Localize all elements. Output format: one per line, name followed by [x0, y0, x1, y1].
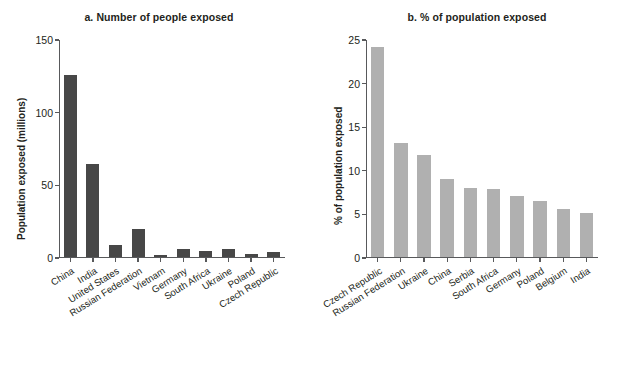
- bar: [109, 245, 122, 257]
- panel-b-y-tick: [362, 127, 366, 128]
- bar: [394, 143, 407, 256]
- bar-slot: [575, 39, 598, 257]
- x-tick-mark: [183, 258, 184, 262]
- bar: [557, 209, 570, 257]
- bar-slot: [217, 39, 240, 257]
- x-tick-slot: [436, 258, 459, 262]
- bar-slot: [149, 39, 172, 257]
- bar: [222, 249, 235, 256]
- bar-slot: [240, 39, 263, 257]
- panel-b-y-tick: [362, 170, 366, 171]
- panel-a-plot-area: ChinaIndiaUnited StatesRussian Federatio…: [59, 40, 285, 258]
- bar: [580, 213, 593, 257]
- x-tick-slot: [104, 258, 127, 262]
- panel-a-y-tick: [55, 112, 59, 113]
- figure: a. Number of people exposed Population e…: [0, 0, 636, 366]
- panel-a-y-axis-label: Population exposed (millions): [16, 98, 27, 240]
- x-tick-slot: [217, 258, 240, 262]
- x-tick-mark: [447, 258, 448, 262]
- panel-b-y-tick-label: 0: [354, 252, 360, 264]
- panel-a-title: a. Number of people exposed: [0, 11, 318, 23]
- panel-a-y-tick-label: 0: [47, 252, 53, 264]
- panel-b-y-tick: [362, 83, 366, 84]
- x-tick-label: India: [569, 265, 592, 285]
- x-tick-slot: [262, 258, 285, 262]
- bar: [64, 75, 77, 257]
- x-tick-mark: [377, 258, 378, 262]
- x-tick-slot: [82, 258, 105, 262]
- x-tick-slot: [195, 258, 218, 262]
- panel-b-y-tick: [362, 257, 366, 258]
- panel-a-y-tick-label: 50: [41, 179, 53, 191]
- panel-a-y-tick: [55, 185, 59, 186]
- x-tick-slot: [240, 258, 263, 262]
- x-tick-mark: [205, 258, 206, 262]
- x-tick-slot: [552, 258, 575, 262]
- bar: [177, 249, 190, 257]
- panel-b: b. % of population exposed % of populati…: [318, 0, 636, 366]
- x-tick-slot: [172, 258, 195, 262]
- panel-a: a. Number of people exposed Population e…: [0, 0, 318, 366]
- x-tick-mark: [92, 258, 93, 262]
- panel-a-y-tick-label: 150: [35, 34, 53, 46]
- bar: [440, 179, 453, 257]
- x-tick-slot: [149, 258, 172, 262]
- bar-slot: [195, 39, 218, 257]
- bar-slot: [172, 39, 195, 257]
- x-tick-label: China: [49, 265, 76, 288]
- x-tick-mark: [563, 258, 564, 262]
- x-tick-mark: [70, 258, 71, 262]
- bar-slot: [82, 39, 105, 257]
- x-tick-mark: [516, 258, 517, 262]
- x-tick-slot: [575, 258, 598, 262]
- x-tick-slot: [459, 258, 482, 262]
- panel-b-y-axis-label: % of population exposed: [333, 107, 344, 225]
- x-tick-slot: [482, 258, 505, 262]
- bar-slot: [262, 39, 285, 257]
- bar: [371, 47, 384, 256]
- bar: [245, 254, 258, 257]
- bar: [510, 196, 523, 257]
- bar-slot: [528, 39, 551, 257]
- bar: [267, 252, 280, 257]
- bar: [86, 164, 99, 257]
- x-tick-mark: [470, 258, 471, 262]
- x-tick-mark: [539, 258, 540, 262]
- x-tick-mark: [250, 258, 251, 262]
- panel-b-y-tick-label: 15: [348, 121, 360, 133]
- x-tick-mark: [400, 258, 401, 262]
- x-tick-slot: [389, 258, 412, 262]
- bar: [487, 189, 500, 257]
- x-tick-slot: [366, 258, 389, 262]
- panel-b-title: b. % of population exposed: [318, 11, 636, 23]
- panel-a-bars: [59, 39, 285, 257]
- panel-a-y-tick: [55, 257, 59, 258]
- bar-slot: [366, 39, 389, 257]
- panel-b-bars: [366, 39, 598, 257]
- x-tick-slot: [59, 258, 82, 262]
- x-tick-mark: [423, 258, 424, 262]
- panel-b-y-tick-label: 10: [348, 165, 360, 177]
- bar: [464, 188, 477, 257]
- panel-b-plot-area: Czech RepublicRussian FederationUkraineC…: [366, 40, 598, 258]
- bar: [533, 201, 546, 257]
- panel-b-y-tick-label: 5: [354, 208, 360, 220]
- bar-slot: [389, 39, 412, 257]
- bar: [199, 251, 212, 257]
- panel-a-y-tick: [55, 39, 59, 40]
- panel-b-y-tick: [362, 214, 366, 215]
- x-tick-mark: [160, 258, 161, 262]
- x-tick-mark: [586, 258, 587, 262]
- bar: [417, 155, 430, 257]
- bar-slot: [59, 39, 82, 257]
- panel-a-y-tick-label: 100: [35, 107, 53, 119]
- panel-b-y-tick: [362, 39, 366, 40]
- bar-slot: [459, 39, 482, 257]
- x-tick-slot: [505, 258, 528, 262]
- panel-b-x-ticks: [366, 258, 598, 262]
- x-tick-mark: [273, 258, 274, 262]
- bar: [154, 255, 167, 256]
- bar-slot: [127, 39, 150, 257]
- x-tick-slot: [528, 258, 551, 262]
- x-tick-mark: [228, 258, 229, 262]
